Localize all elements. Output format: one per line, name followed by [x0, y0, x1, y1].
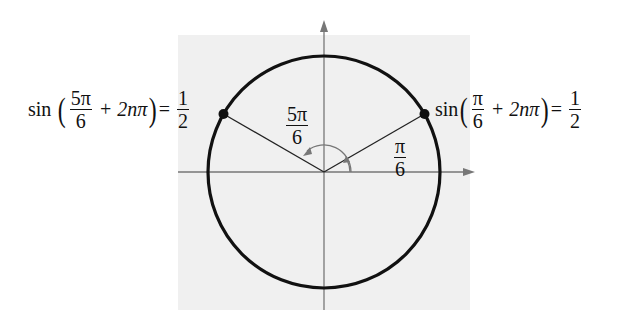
rhs-denominator: 2	[570, 110, 580, 131]
label-denominator: 6	[395, 158, 405, 179]
left-paren: (	[460, 93, 468, 127]
label-numerator: π	[394, 136, 406, 158]
angle-fraction: π6	[472, 88, 484, 131]
plus-term: + 2nπ	[99, 98, 148, 121]
rhs-fraction: 12	[177, 88, 189, 131]
fraction-numerator: π	[472, 88, 484, 110]
rhs-fraction: 12	[569, 88, 581, 131]
equals-sign: =	[551, 98, 562, 121]
right-equation: sin( π6 + 2nπ) = 12	[435, 88, 583, 131]
point-pi-over-6	[420, 109, 430, 119]
right-paren: )	[149, 93, 157, 127]
sin-function: sin	[435, 98, 458, 121]
rhs-numerator: 1	[569, 88, 581, 110]
left-equation: sin ( 5π6 + 2nπ) = 12	[28, 88, 191, 131]
fraction-denominator: 6	[76, 110, 86, 131]
plus-term: + 2nπ	[491, 98, 540, 121]
y-axis-arrow-icon	[320, 20, 328, 32]
right-paren: )	[541, 93, 549, 127]
unit-circle-diagram	[0, 0, 634, 319]
fraction-numerator: 5π	[70, 88, 92, 110]
rhs-numerator: 1	[177, 88, 189, 110]
angle-label-5pi-over-6: 5π6	[284, 103, 310, 147]
equals-sign: =	[159, 98, 170, 121]
label-denominator: 6	[292, 126, 302, 147]
rhs-denominator: 2	[178, 110, 188, 131]
sin-function: sin	[28, 98, 51, 121]
label-numerator: 5π	[286, 104, 308, 126]
angle-label-pi-over-6: π6	[392, 135, 408, 179]
angle-fraction: 5π6	[70, 88, 92, 131]
left-paren: (	[58, 93, 66, 127]
point-5pi-over-6	[219, 109, 229, 119]
fraction-denominator: 6	[473, 110, 483, 131]
